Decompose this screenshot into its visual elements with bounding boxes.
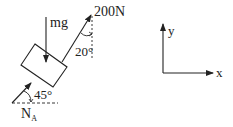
normal-force-label-subscript: A <box>31 114 37 123</box>
normal-force-label: NA <box>21 106 37 123</box>
applied-force-label: 200N <box>94 4 125 19</box>
y-axis-label: y <box>168 23 175 38</box>
applied-force-angle-label: 20° <box>75 44 93 59</box>
block <box>21 44 67 87</box>
weight-label: mg <box>50 15 68 30</box>
normal-force-label-main: N <box>21 106 31 121</box>
diagram-svg: mg 200N 20° 45° NA y x <box>0 0 233 127</box>
normal-force-arrow <box>12 83 31 103</box>
free-body-diagram: mg 200N 20° 45° NA y x <box>0 0 233 127</box>
x-axis-label: x <box>216 65 223 80</box>
normal-force-angle-label: 45° <box>34 87 52 102</box>
